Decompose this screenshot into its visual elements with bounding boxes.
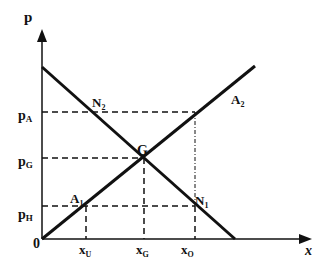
point-label-N2: N2 [92, 95, 105, 112]
y-axis-arrow-icon [37, 29, 47, 42]
point-label-A1: A1 [70, 191, 83, 208]
point-label-A2: A2 [231, 92, 244, 109]
quantity-label-xG: xG [136, 242, 149, 259]
price-label-pH: pH [18, 207, 33, 223]
price-label-pA: pA [18, 108, 33, 124]
point-label-G: G [137, 143, 148, 158]
y-axis-label: p [24, 9, 32, 25]
x-axis-label: x [304, 243, 312, 258]
point-label-N1: N1 [195, 193, 208, 210]
origin-label: 0 [33, 236, 40, 251]
diagram-canvas: p x 0 pA pG pH xU xG xO N2 A2 G A1 N1 [0, 0, 326, 262]
supply-demand-diagram: p x 0 pA pG pH xU xG xO N2 A2 G A1 N1 [0, 0, 326, 262]
quantity-label-xU: xU [79, 242, 92, 259]
supply-line [42, 66, 255, 239]
quantity-label-xO: xO [181, 242, 194, 259]
price-label-pG: pG [18, 154, 33, 170]
